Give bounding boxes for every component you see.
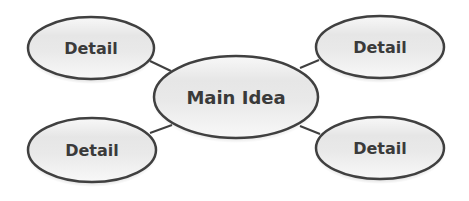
connector-top-right: [300, 60, 319, 68]
connector-bottom-right: [300, 126, 320, 134]
detail-oval-bottom-right: [314, 117, 446, 184]
detail-oval-bottom-left: [26, 118, 158, 187]
main-idea-oval: [152, 56, 320, 143]
connector-bottom-left: [150, 125, 172, 133]
nodes-layer: [26, 16, 446, 187]
detail-oval-top-right: [314, 16, 446, 83]
concept-map-diagram: Main Idea Detail Detail Detail Detail: [0, 0, 469, 201]
diagram-canvas: [0, 0, 469, 201]
detail-oval-top-left: [26, 17, 156, 84]
connector-top-left: [150, 61, 171, 71]
